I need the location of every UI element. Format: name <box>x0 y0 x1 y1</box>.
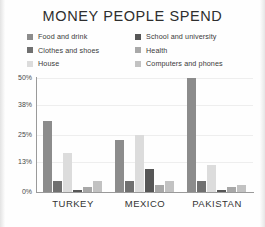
legend-item-clothes-and-shoes[interactable]: Clothes and shoes <box>27 44 135 58</box>
page-edge-right <box>260 0 265 227</box>
chart-title: MONEY PEOPLE SPEND <box>0 8 265 24</box>
y-axis-tick-label: 38% <box>4 101 32 108</box>
bar-group-turkey <box>43 78 102 192</box>
y-axis-tick-label: 13% <box>4 158 32 165</box>
bar[interactable] <box>155 185 164 192</box>
legend-item-school-and-university[interactable]: School and university <box>135 30 255 44</box>
bar[interactable] <box>145 169 154 192</box>
legend-label: Computers and phones <box>146 59 223 68</box>
legend-swatch-icon <box>135 47 141 53</box>
x-axis-tick-label: PAKISTAN <box>181 198 253 209</box>
legend-item-house[interactable]: House <box>27 57 135 71</box>
legend-swatch-icon <box>27 61 33 67</box>
legend-label: Clothes and shoes <box>38 46 99 55</box>
bar[interactable] <box>207 165 216 192</box>
y-axis-tick-label: 50% <box>4 74 32 81</box>
bar[interactable] <box>43 121 52 192</box>
legend-label: House <box>38 59 59 68</box>
legend-swatch-icon <box>27 34 33 40</box>
legend-swatch-icon <box>27 47 33 53</box>
bar[interactable] <box>165 181 174 192</box>
x-axis-line <box>36 192 254 193</box>
bar[interactable] <box>73 190 82 192</box>
legend-item-health[interactable]: Health <box>135 44 255 58</box>
legend-label: Health <box>146 46 167 55</box>
bar[interactable] <box>83 187 92 192</box>
x-axis-tick-label: MEXICO <box>109 198 181 209</box>
chart-card: MONEY PEOPLE SPEND Food and drink School… <box>0 0 265 227</box>
bar[interactable] <box>115 140 124 192</box>
bar[interactable] <box>217 190 226 192</box>
legend-item-food-and-drink[interactable]: Food and drink <box>27 30 135 44</box>
legend-label: Food and drink <box>38 32 87 41</box>
bar[interactable] <box>227 187 236 192</box>
legend-item-computers-and-phones[interactable]: Computers and phones <box>135 57 255 71</box>
legend-swatch-icon <box>135 34 141 40</box>
bar[interactable] <box>135 135 144 192</box>
legend-swatch-icon <box>135 61 141 67</box>
bar-group-mexico <box>115 78 174 192</box>
chart-legend: Food and drink School and university Clo… <box>27 30 255 71</box>
bar[interactable] <box>197 181 206 192</box>
bar[interactable] <box>237 185 246 192</box>
x-axis-tick-label: TURKEY <box>37 198 109 209</box>
bar[interactable] <box>53 181 62 192</box>
bar-group-pakistan <box>187 78 246 192</box>
y-axis-tick-label: 0% <box>4 188 32 195</box>
bar[interactable] <box>187 78 196 192</box>
bar[interactable] <box>93 181 102 192</box>
bar[interactable] <box>63 153 72 192</box>
bar[interactable] <box>125 181 134 192</box>
plot-area <box>37 78 253 192</box>
y-axis-tick-label: 25% <box>4 131 32 138</box>
legend-label: School and university <box>146 32 216 41</box>
